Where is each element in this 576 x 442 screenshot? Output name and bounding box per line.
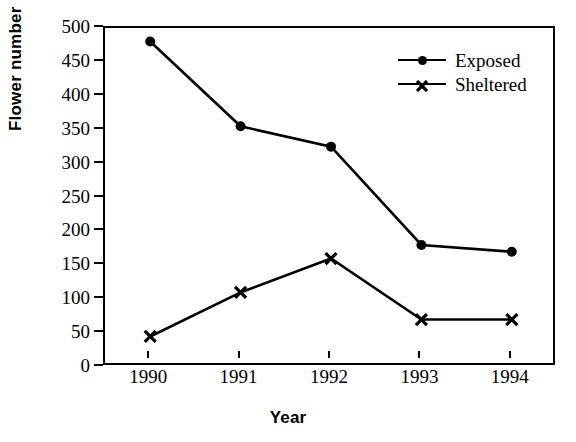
filled-circle-marker-icon [507,247,517,257]
legend: ExposedSheltered [398,48,527,96]
x-tick-mark [147,351,149,358]
y-tick-mark [94,195,103,197]
y-tick-label: 400 [62,84,91,103]
x-cross-marker-icon [235,287,246,298]
y-tick-mark [94,364,103,366]
y-tick-mark [94,161,103,163]
y-tick-mark [94,59,103,61]
y-tick-label: 0 [81,356,91,375]
series-line [150,259,512,337]
x-tick-label: 1994 [491,367,529,386]
filled-circle-marker-icon [145,37,155,47]
y-tick-label: 150 [62,254,91,273]
series-sheltered [145,253,518,342]
x-cross-marker-icon [416,78,428,90]
legend-label: Sheltered [455,75,527,94]
x-tick-mark [418,351,420,358]
y-tick-mark [94,262,103,264]
y-tick-label: 200 [62,220,91,239]
y-tick-mark [94,330,103,332]
x-tick-label: 1993 [400,367,438,386]
x-cross-marker-icon [506,314,517,325]
x-cross-marker-icon [398,74,446,94]
filled-circle-marker-icon [398,50,446,70]
legend-label: Exposed [455,51,520,70]
y-tick-label: 50 [71,322,90,341]
x-tick-label: 1990 [129,367,167,386]
y-tick-label: 250 [62,186,91,205]
y-tick-label: 100 [62,288,91,307]
legend-item-exposed: Exposed [398,48,527,72]
y-tick-mark [94,127,103,129]
x-tick-mark [328,351,330,358]
y-tick-label: 350 [62,118,91,137]
filled-circle-marker-icon [416,240,426,250]
x-cross-marker-icon [416,314,427,325]
y-tick-label: 300 [62,152,91,171]
x-tick-label: 1991 [220,367,258,386]
y-tick-mark [94,296,103,298]
filled-circle-marker-icon [326,142,336,152]
filled-circle-marker-icon [418,56,427,65]
x-cross-marker-icon [145,331,156,342]
x-axis-title: Year [0,408,576,428]
x-tick-label: 1992 [310,367,348,386]
x-tick-mark [509,351,511,358]
y-tick-label: 450 [62,50,91,69]
y-tick-mark [94,228,103,230]
x-tick-mark [238,351,240,358]
y-tick-mark [94,93,103,95]
y-tick-label: 500 [62,17,91,36]
x-cross-marker-icon [326,253,337,264]
line-chart: Flower number 05010015020025030035040045… [0,0,576,442]
y-axis-title: Flower number [6,105,26,131]
legend-item-sheltered: Sheltered [398,72,527,96]
filled-circle-marker-icon [236,121,246,131]
y-tick-mark [94,25,103,27]
